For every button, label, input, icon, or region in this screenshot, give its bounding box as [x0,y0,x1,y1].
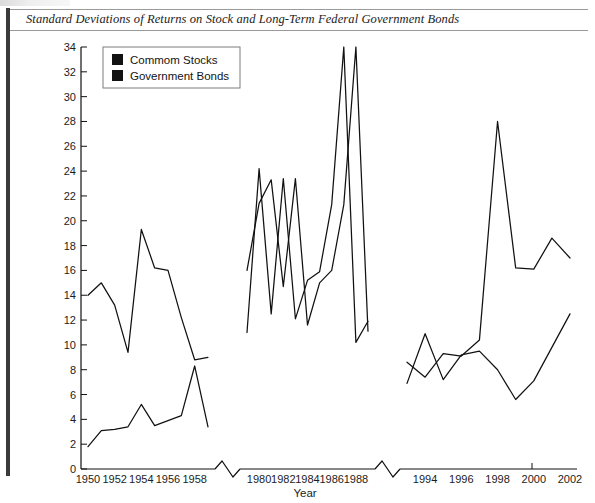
legend-swatch-government-bonds [112,70,123,81]
scan-artifact [0,0,70,6]
x-axis-break-1 [215,461,240,477]
x-axis-tick-label-1952: 1952 [102,473,126,485]
y-axis-ticks [81,47,87,469]
x-axis-tick-label-1954: 1954 [129,473,153,485]
x-axis-tick-label-1982: 1982 [271,473,295,485]
series-line-0-segment-0 [88,229,208,359]
y-axis-tick-label-18: 18 [64,240,76,252]
series-line-1-segment-0 [88,366,208,447]
x-axis-title: Year [293,487,316,499]
series-layer [88,47,570,447]
x-axis-tick-label-1998: 1998 [485,473,509,485]
figure-frame: Standard Deviations of Returns on Stock … [0,0,595,503]
y-axis-tick-label-34: 34 [64,41,76,53]
x-axis-tick-label-1994: 1994 [413,473,437,485]
x-axis-tick-label-1950: 1950 [76,473,100,485]
series-line-0-segment-2 [407,121,570,377]
y-axis-tick-labels: 0246810121416182022242628303234 [64,41,76,475]
line-chart-plot: 0246810121416182022242628303234 19501952… [0,31,595,503]
y-axis-tick-label-12: 12 [64,314,76,326]
y-axis-tick-label-14: 14 [64,289,76,301]
x-axis: 1950195219541956195819801982198419861988… [76,461,582,499]
y-axis-tick-label-4: 4 [70,413,76,425]
x-axis-tick-label-1986: 1986 [319,473,343,485]
x-axis-tick-label-1980: 1980 [247,473,271,485]
y-axis-tick-label-2: 2 [70,438,76,450]
x-axis-tick-label-1984: 1984 [295,473,319,485]
y-axis-tick-label-8: 8 [70,364,76,376]
title-rule-top [10,9,588,10]
y-axis-tick-label-30: 30 [64,91,76,103]
y-axis-tick-label-22: 22 [64,190,76,202]
y-axis-tick-label-10: 10 [64,339,76,351]
x-axis-tick-label-2002: 2002 [558,473,582,485]
x-axis-tick-label-1996: 1996 [449,473,473,485]
y-axis-tick-label-16: 16 [64,264,76,276]
series-line-0-segment-1 [247,47,368,342]
y-axis: 0246810121416182022242628303234 [64,41,87,475]
x-axis-break-2 [375,461,400,477]
legend-label-common-stocks: Commom Stocks [130,54,218,66]
x-axis-tick-label-1958: 1958 [182,473,206,485]
x-axis-tick-label-1988: 1988 [344,473,368,485]
series-government-bonds [88,47,570,447]
y-axis-tick-label-28: 28 [64,115,76,127]
series-commom-stocks [88,47,570,377]
y-axis-tick-label-6: 6 [70,389,76,401]
x-axis-tick-labels: 1950195219541956195819801982198419861988… [76,473,582,485]
y-axis-tick-label-26: 26 [64,140,76,152]
y-axis-tick-label-32: 32 [64,66,76,78]
x-axis-tick-label-1956: 1956 [156,473,180,485]
legend-label-government-bonds: Government Bonds [130,70,229,82]
chart-title: Standard Deviations of Returns on Stock … [26,12,581,29]
series-line-1-segment-2 [407,314,570,400]
legend-swatch-common-stocks [112,54,123,65]
x-axis-tick-label-2000: 2000 [522,473,546,485]
y-axis-tick-label-24: 24 [64,165,76,177]
chart-legend: Commom Stocks Government Bonds [103,47,240,88]
y-axis-tick-label-20: 20 [64,215,76,227]
